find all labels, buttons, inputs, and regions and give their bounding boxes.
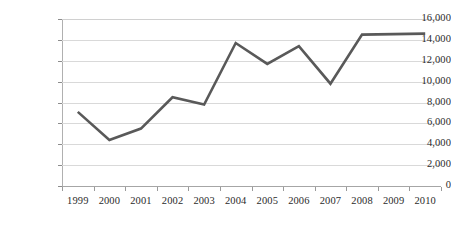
data-line-series-1 <box>78 34 425 140</box>
series-layer <box>0 0 451 232</box>
line-chart: 02,0004,0006,0008,00010,00012,00014,0001… <box>0 0 451 232</box>
